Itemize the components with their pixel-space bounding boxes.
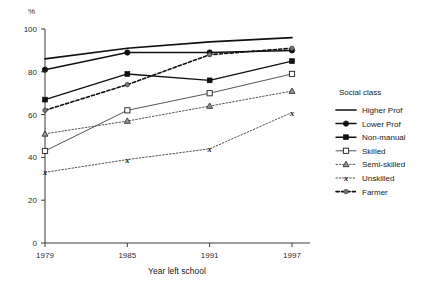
marker xyxy=(43,108,47,112)
data-point-x: x xyxy=(124,155,130,165)
data-point-circle-filled xyxy=(125,50,130,55)
marker xyxy=(125,82,129,86)
marker: x xyxy=(207,144,213,154)
y-tick-label: 80 xyxy=(28,68,37,77)
marker: x xyxy=(289,108,295,118)
marker xyxy=(343,148,348,153)
data-point-triangle xyxy=(289,88,295,93)
marker xyxy=(42,148,47,153)
legend-item-label: Higher Prof xyxy=(362,106,403,115)
marker xyxy=(125,50,130,55)
series-farmer xyxy=(43,46,294,112)
y-tick-label: 100 xyxy=(24,25,38,34)
marker xyxy=(42,131,48,136)
data-point-triangle xyxy=(42,131,48,136)
legend-item-unskilled[interactable]: xUnskilled xyxy=(336,173,394,183)
data-point-square-filled xyxy=(207,78,212,83)
marker xyxy=(289,71,294,76)
chart-container: % 020406080100 1979198519911997 xxxx Yea… xyxy=(0,0,425,289)
data-point-x: x xyxy=(289,108,295,118)
legend-items: Higher ProfLower ProfNon-manualSkilledSe… xyxy=(336,106,406,197)
data-point-square-filled xyxy=(125,72,130,77)
y-unit-label: % xyxy=(28,7,35,16)
data-point-x: x xyxy=(42,167,48,177)
series-group: xxxx xyxy=(42,38,295,178)
data-point-x: x xyxy=(207,144,213,154)
legend-marker-x: x xyxy=(343,173,349,183)
legend-item-label: Skilled xyxy=(362,147,386,156)
legend-item-lower-prof[interactable]: Lower Prof xyxy=(336,120,401,129)
x-axis-ticks: 1979198519911997 xyxy=(36,243,301,260)
legend-item-semi-skilled[interactable]: Semi-skilled xyxy=(336,160,405,169)
series-line xyxy=(45,61,292,100)
marker xyxy=(207,78,212,83)
marker xyxy=(42,67,47,72)
x-axis-title: Year left school xyxy=(148,266,206,276)
legend-item-label: Semi-skilled xyxy=(362,160,405,169)
data-point-square-open xyxy=(42,148,47,153)
data-point-square-open xyxy=(207,91,212,96)
series-non-manual xyxy=(43,59,295,102)
y-tick-label: 0 xyxy=(33,239,38,248)
series-line xyxy=(45,38,292,59)
legend-item-non-manual[interactable]: Non-manual xyxy=(336,133,406,142)
data-point-circle-small xyxy=(43,108,47,112)
legend-item-label: Lower Prof xyxy=(362,120,401,129)
series-unskilled: xxxx xyxy=(42,108,295,178)
legend-title: Social class xyxy=(339,88,381,97)
legend-item-label: Farmer xyxy=(362,188,388,197)
data-point-square-filled xyxy=(290,59,295,64)
marker xyxy=(344,135,349,140)
x-tick-label: 1997 xyxy=(283,251,301,260)
data-point-circle-small xyxy=(290,46,294,50)
marker xyxy=(207,52,211,56)
data-point-circle-filled xyxy=(42,67,47,72)
series-semi-skilled xyxy=(42,88,295,136)
legend-item-label: Unskilled xyxy=(362,174,394,183)
data-point-triangle xyxy=(207,103,213,108)
series-line xyxy=(45,74,292,151)
marker xyxy=(344,189,348,193)
series-higher-prof xyxy=(45,38,292,59)
marker: x xyxy=(124,155,130,165)
marker: x xyxy=(343,173,349,183)
data-point-square-open xyxy=(289,71,294,76)
data-point-square-open xyxy=(125,108,130,113)
marker xyxy=(43,97,48,102)
marker xyxy=(289,88,295,93)
marker xyxy=(290,59,295,64)
y-tick-label: 20 xyxy=(28,196,37,205)
series-line xyxy=(45,112,292,172)
legend-marker-square-filled xyxy=(344,135,349,140)
x-tick-label: 1985 xyxy=(118,251,136,260)
data-point-circle-small xyxy=(207,52,211,56)
marker xyxy=(125,72,130,77)
marker xyxy=(207,103,213,108)
series-skilled xyxy=(42,71,294,153)
legend-item-skilled[interactable]: Skilled xyxy=(336,147,386,156)
data-point-square-filled xyxy=(43,97,48,102)
legend-marker-circle-small xyxy=(344,189,348,193)
marker xyxy=(125,108,130,113)
marker: x xyxy=(42,167,48,177)
y-tick-label: 40 xyxy=(28,153,37,162)
y-tick-label: 60 xyxy=(28,111,37,120)
x-tick-label: 1979 xyxy=(36,251,54,260)
marker xyxy=(343,121,348,126)
series-line xyxy=(45,48,292,110)
x-tick-label: 1991 xyxy=(201,251,219,260)
legend-item-label: Non-manual xyxy=(362,133,406,142)
marker xyxy=(207,91,212,96)
series-line xyxy=(45,91,292,134)
line-chart: % 020406080100 1979198519911997 xxxx Yea… xyxy=(0,0,425,289)
legend-marker-square-open xyxy=(343,148,348,153)
data-point-circle-small xyxy=(125,82,129,86)
marker xyxy=(290,46,294,50)
legend-item-farmer[interactable]: Farmer xyxy=(336,188,388,197)
legend-marker-circle-filled xyxy=(343,121,348,126)
legend-item-higher-prof[interactable]: Higher Prof xyxy=(336,106,403,115)
